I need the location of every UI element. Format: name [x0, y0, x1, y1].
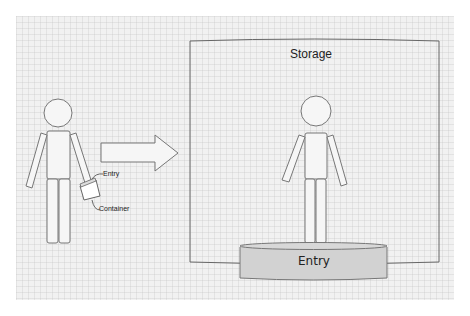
container-shape[interactable] [80, 178, 100, 200]
left-person-left-leg [47, 179, 58, 243]
left-person-left-arm [26, 133, 47, 188]
left-person-right-leg [59, 179, 70, 243]
storage-title: Storage [290, 47, 332, 61]
diagram-shapes [0, 0, 470, 316]
right-person-head [301, 96, 331, 126]
right-arrow-icon [101, 135, 178, 171]
entry-cylinder-label: Entry [298, 254, 330, 268]
left-person-right-arm [70, 133, 91, 183]
left-person-head [44, 99, 72, 127]
right-person-torso [305, 133, 327, 179]
left-person-figure[interactable] [26, 99, 91, 243]
left-person-torso [47, 131, 70, 179]
entry-callout-label: Entry [103, 170, 119, 177]
right-person-figure[interactable] [282, 96, 347, 243]
right-person-left-arm [282, 135, 305, 182]
container-callout-label: Container [99, 205, 129, 212]
right-person-right-leg [316, 179, 326, 243]
right-person-right-arm [327, 135, 347, 186]
right-person-left-leg [305, 179, 315, 243]
